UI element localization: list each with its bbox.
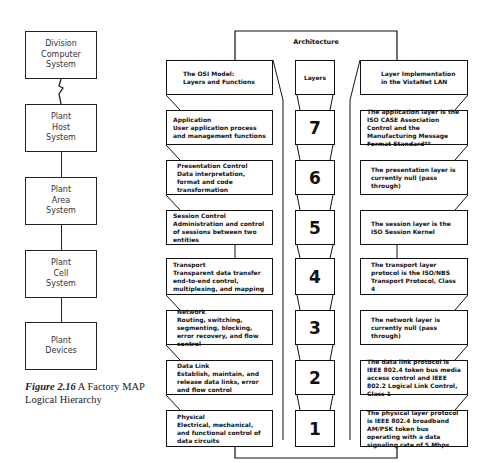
layers-header: Layers [295,60,335,95]
layer-1-number: 1 [295,410,335,447]
layer-4-function: Transport Transparent data transfer end-… [166,258,273,295]
layer-3-implementation: The network layer is currently null (pas… [360,310,468,345]
layer-function: Establish, maintain, and release data li… [177,370,266,394]
layer-name: Transport [173,261,266,269]
layer-function: Administration and control of sessions b… [173,220,266,244]
figure-number: Figure 2.16 [25,381,76,392]
layer-function: Routing, switching, segmenting, blocking… [177,316,266,348]
plant-host-system-box: Plant Host System [25,104,97,152]
layer-5-implementation: The session layer is the ISO Session Ker… [360,210,468,245]
implementation-header: Layer Implementation in the VistaNet LAN [360,60,468,95]
layer-2-implementation: The data link protocol is IEEE 802.4 tok… [360,360,468,395]
division-computer-system-box: Division Computer System [25,31,97,79]
architecture-title: Architecture [235,38,397,46]
layer-name: Session Control [173,212,266,220]
layer-2-function: Data Link Establish, maintain, and relea… [166,360,273,395]
layer-function: User application process and management … [173,124,266,140]
layer-3-number: 3 [295,310,335,345]
layer-function: Data interpretation, format and code tra… [177,170,266,194]
layer-7-implementation: The application layer is the ISO CASE As… [360,110,468,145]
plant-area-system-box: Plant Area System [25,177,97,225]
layer-1-implementation: The physical layer protocol is IEEE 802.… [360,410,468,447]
layer-4-number: 4 [295,258,335,295]
layer-6-function: Presentation Control Data interpretation… [166,160,273,195]
connector-line [61,298,62,322]
layer-name: Data Link [177,362,266,370]
layer-5-function: Session Control Administration and contr… [166,210,273,245]
layer-7-number: 7 [295,110,335,145]
layer-5-number: 5 [295,210,335,245]
lightning-bolt-icon [59,79,63,104]
figure-caption: Figure 2.16 A Factory MAP Logical Hierar… [25,380,165,406]
layer-name: Physical [177,413,266,421]
layer-name: Presentation Control [177,162,266,170]
osi-model-header: The OSI Model: Layers and Functions [166,60,273,95]
plant-devices-box: Plant Devices [25,322,97,370]
layer-2-number: 2 [295,360,335,395]
layer-function: Transparent data transfer end-to-end con… [173,269,266,293]
layer-4-implementation: The transport layer protocol is the ISO/… [360,258,468,295]
connector-line [61,152,62,177]
layer-6-implementation: The presentation layer is currently null… [360,160,468,195]
layer-name: Application [173,116,266,124]
layer-1-function: Physical Electrical, mechanical, and fun… [166,410,273,447]
layer-name: Network [177,308,266,316]
layer-6-number: 6 [295,160,335,195]
connector-line [61,225,62,250]
layer-function: Electrical, mechanical, and functional c… [177,421,266,445]
layer-3-function: Network Routing, switching, segmenting, … [166,310,273,345]
layer-7-function: Application User application process and… [166,110,273,145]
plant-cell-system-box: Plant Cell System [25,250,97,298]
